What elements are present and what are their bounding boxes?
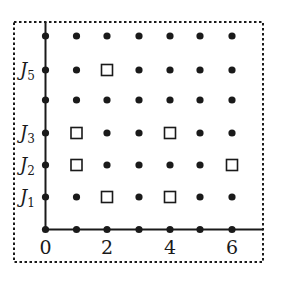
dot-marker xyxy=(135,32,142,39)
dot-marker xyxy=(42,226,49,233)
dot-marker xyxy=(166,32,173,39)
y-level-label: J1 xyxy=(16,186,35,210)
dot-marker xyxy=(73,66,80,73)
dot-marker xyxy=(196,161,203,168)
dot-marker xyxy=(196,226,203,233)
x-tick-labels: 0246 xyxy=(39,236,238,258)
dot-marker xyxy=(196,129,203,136)
dot-marker xyxy=(103,226,110,233)
square-marker xyxy=(102,192,113,203)
dot-marker xyxy=(42,96,49,103)
y-level-label: J5 xyxy=(16,59,35,83)
dot-marker xyxy=(228,66,235,73)
y-level-labels: J1J2J3J5 xyxy=(16,59,35,210)
dot-marker xyxy=(228,32,235,39)
dot-marker xyxy=(135,96,142,103)
dot-marker xyxy=(228,96,235,103)
dot-marker xyxy=(103,32,110,39)
square-marker xyxy=(71,128,82,139)
dot-marker xyxy=(73,32,80,39)
dot-marker xyxy=(135,129,142,136)
y-level-label: J2 xyxy=(16,154,35,178)
dot-marker xyxy=(166,96,173,103)
dot-marker xyxy=(42,161,49,168)
lattice-points xyxy=(42,32,238,233)
dot-marker xyxy=(42,32,49,39)
x-tick-label: 4 xyxy=(164,236,176,258)
dot-marker xyxy=(228,226,235,233)
dot-marker xyxy=(166,161,173,168)
dot-marker xyxy=(228,193,235,200)
dot-marker xyxy=(73,96,80,103)
dot-marker xyxy=(135,161,142,168)
square-marker xyxy=(165,192,176,203)
x-tick-label: 0 xyxy=(39,236,51,258)
square-marker xyxy=(227,160,238,171)
dot-marker xyxy=(103,96,110,103)
dot-marker xyxy=(196,193,203,200)
dot-marker xyxy=(196,32,203,39)
dot-marker xyxy=(135,66,142,73)
dot-marker xyxy=(73,226,80,233)
lattice-diagram: 0246 J1J2J3J5 xyxy=(0,0,281,291)
square-marker xyxy=(165,128,176,139)
dot-marker xyxy=(196,66,203,73)
dot-marker xyxy=(103,129,110,136)
x-tick-label: 2 xyxy=(101,236,113,258)
dot-marker xyxy=(42,193,49,200)
dot-marker xyxy=(103,161,110,168)
dot-marker xyxy=(228,129,235,136)
dot-marker xyxy=(42,129,49,136)
dot-marker xyxy=(196,96,203,103)
dot-marker xyxy=(135,193,142,200)
dot-marker xyxy=(73,193,80,200)
x-tick-label: 6 xyxy=(226,236,238,258)
dot-marker xyxy=(135,226,142,233)
square-marker xyxy=(71,160,82,171)
dot-marker xyxy=(166,66,173,73)
dot-marker xyxy=(166,226,173,233)
square-marker xyxy=(102,65,113,76)
dot-marker xyxy=(42,66,49,73)
y-level-label: J3 xyxy=(16,122,35,146)
